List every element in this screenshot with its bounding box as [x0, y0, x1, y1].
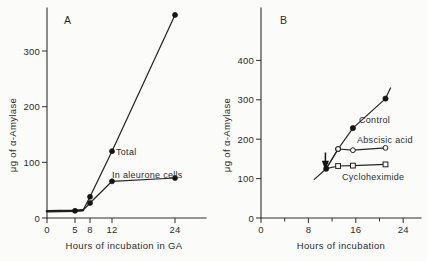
panel-b-series-cycloheximide-line	[326, 164, 385, 168]
panel-b-x-tick-24: 24	[398, 224, 409, 235]
panel-b-y-tick-300: 300	[238, 94, 254, 105]
panel-a-y-tick-100: 100	[24, 157, 40, 168]
panel-b-y-axis-title: μg of α-Amylase	[221, 98, 232, 172]
panel-b-label-abscisic: Abscisic acid	[357, 135, 413, 145]
panel-b-series-control-markers	[324, 96, 388, 171]
panel-b-x-tick-labels: 0 8 16 24	[258, 224, 408, 235]
panel-b-letter: B	[280, 14, 287, 26]
panel-b-x-tick-0: 0	[258, 224, 263, 235]
panel-a: 0 100 200 300 0 5 8 12 24 Hours of	[0, 0, 213, 261]
figure-container: 0 100 200 300 0 5 8 12 24 Hours of	[0, 0, 427, 261]
panel-a-y-tick-0: 0	[35, 213, 40, 224]
panel-b-y-ticks	[256, 60, 261, 218]
panel-a-x-axis-title: Hours of incubation in GA	[65, 240, 182, 251]
panel-a-letter: A	[64, 14, 71, 26]
panel-a-x-tick-12: 12	[107, 224, 118, 235]
panel-a-label-aleurone: In aleurone cells	[112, 170, 183, 180]
panel-b-y-tick-100: 100	[238, 173, 254, 184]
panel-b-y-tick-0: 0	[249, 213, 254, 224]
panel-b-x-ticks	[261, 218, 403, 223]
panel-a-x-tick-5: 5	[72, 224, 77, 235]
panel-a-y-ticks	[42, 51, 47, 218]
panel-a-y-tick-labels: 0 100 200 300	[24, 46, 40, 224]
panel-a-y-tick-300: 300	[24, 46, 40, 57]
panel-b: 0 100 200 300 400 0 8 16 24	[213, 0, 427, 261]
panel-b-plot: 0 100 200 300 400 0 8 16 24	[213, 0, 427, 261]
panel-a-y-axis-title: μg of α-Amylase	[7, 98, 18, 172]
panel-a-x-tick-24: 24	[170, 224, 181, 235]
panel-b-x-tick-8: 8	[306, 224, 311, 235]
panel-a-label-total: Total	[116, 147, 137, 157]
panel-b-y-tick-400: 400	[238, 55, 254, 66]
panel-a-x-tick-8: 8	[87, 224, 92, 235]
panel-b-x-tick-16: 16	[350, 224, 361, 235]
panel-a-x-tick-0: 0	[44, 224, 49, 235]
panel-a-x-tick-labels: 0 5 8 12 24	[44, 224, 180, 235]
panel-b-x-axis-title: Hours of incubation	[297, 240, 386, 251]
panel-b-label-cycloheximide: Cycloheximide	[342, 172, 404, 182]
panel-b-label-control: Control	[359, 115, 390, 125]
panel-a-x-ticks	[47, 218, 175, 223]
panel-a-y-tick-200: 200	[24, 101, 40, 112]
panel-b-branch-point-arrow-icon	[323, 153, 328, 169]
panel-b-y-tick-labels: 0 100 200 300 400	[238, 55, 254, 224]
panel-a-plot: 0 100 200 300 0 5 8 12 24 Hours of	[0, 0, 213, 261]
panel-b-y-tick-200: 200	[238, 134, 254, 145]
